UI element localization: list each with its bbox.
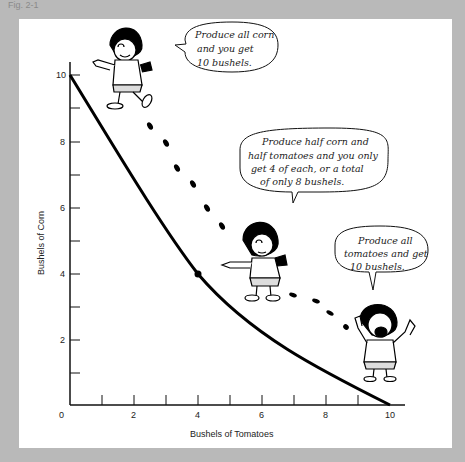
y-tick-10: 10 <box>56 70 66 80</box>
y-tick-labels: 10 8 6 4 2 <box>56 70 66 345</box>
bubble-half-line-2: half tomatoes and you only <box>248 150 379 161</box>
bubble-half-line-4: of only 8 bushels. <box>260 176 344 187</box>
girl-corn-illustration <box>93 28 154 109</box>
x-axis <box>70 395 405 405</box>
x-tick-0: 0 <box>59 410 64 420</box>
speech-bubble-tomatoes: Produce all tomatoes and get 10 bushels. <box>335 226 428 290</box>
girl-pointing-illustration <box>222 222 287 301</box>
x-tick-6: 6 <box>259 410 264 420</box>
y-tick-8: 8 <box>60 137 65 147</box>
bubble-tomatoes-line-2: tomatoes and get <box>344 248 428 259</box>
y-tick-6: 6 <box>60 203 65 213</box>
y-axis <box>70 62 80 405</box>
x-axis-title: Bushels of Tomatoes <box>190 429 274 439</box>
x-tick-4: 4 <box>195 410 200 420</box>
x-tick-labels: 0 2 4 6 8 10 <box>59 410 395 420</box>
bubble-tomatoes-line-3: 10 bushels. <box>350 261 405 272</box>
girl-happy-illustration <box>355 305 415 382</box>
bubble-half-line-3: get 4 of each, or a total <box>251 163 364 174</box>
speech-bubble-corn: Produce all corn and you get 10 bushels. <box>175 22 278 72</box>
x-tick-10: 10 <box>385 410 395 420</box>
bubble-corn-line-1: Produce all corn <box>194 29 274 40</box>
ppf-chart: 10 8 6 4 2 0 2 4 6 8 10 Bushels of Tomat… <box>0 0 465 462</box>
x-tick-8: 8 <box>323 410 328 420</box>
bubble-corn-line-3: 10 bushels. <box>197 57 252 68</box>
y-axis-title: Bushels of Corn <box>36 211 46 275</box>
bubble-half-line-1: Produce half corn and <box>261 136 369 147</box>
speech-bubble-half: Produce half corn and half tomatoes and … <box>240 128 388 203</box>
bubble-tomatoes-line-1: Produce all <box>357 235 413 246</box>
midpoint-marker <box>195 271 202 278</box>
y-tick-2: 2 <box>60 335 65 345</box>
x-tick-2: 2 <box>131 410 136 420</box>
bubble-corn-line-2: and you get <box>197 43 254 54</box>
y-tick-4: 4 <box>60 269 65 279</box>
